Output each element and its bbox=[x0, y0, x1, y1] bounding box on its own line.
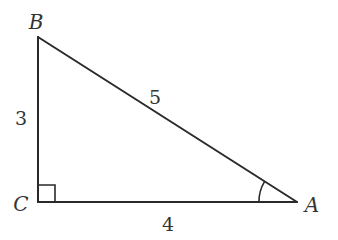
side-ba bbox=[38, 37, 297, 202]
side-label-ca: 4 bbox=[162, 213, 174, 235]
vertex-label-c: C bbox=[13, 192, 28, 216]
angle-arc-a bbox=[259, 182, 265, 202]
vertex-label-a: A bbox=[303, 193, 319, 217]
vertex-label-b: B bbox=[28, 10, 44, 34]
side-label-ba: 5 bbox=[149, 86, 161, 108]
side-label-bc: 3 bbox=[15, 107, 27, 129]
right-angle-marker-c bbox=[38, 185, 55, 202]
triangle-diagram: B C A 3 5 4 bbox=[0, 0, 338, 240]
